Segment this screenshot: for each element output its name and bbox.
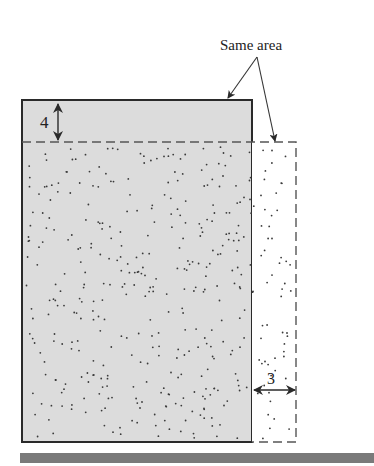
- side-dimension-label: 3: [267, 370, 275, 387]
- top-dimension-label: 4: [40, 113, 49, 132]
- annotation-pointer-left: [228, 57, 257, 98]
- area-diagram: 4 3 Same area: [0, 0, 374, 466]
- bottom-bar: [20, 453, 374, 463]
- annotation-pointer-right: [257, 57, 275, 141]
- same-area-annotation: Same area: [220, 37, 282, 53]
- added-strip: [252, 142, 296, 442]
